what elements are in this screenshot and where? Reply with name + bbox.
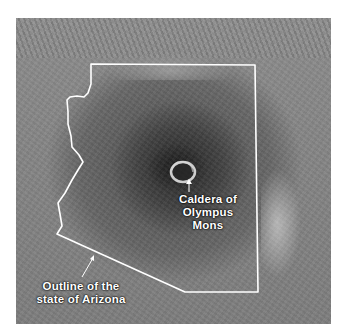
arizona-label: Outline of the state of Arizona xyxy=(36,280,126,306)
caldera-label: Caldera of Olympus Mons xyxy=(168,193,248,232)
arizona-arrow xyxy=(82,255,94,277)
arizona-label-line1: Outline of the xyxy=(36,280,126,293)
arizona-label-line2: state of Arizona xyxy=(36,293,126,306)
arizona-outline xyxy=(57,64,258,292)
caldera-label-line1: Caldera of xyxy=(168,193,248,206)
caldera-label-line2: Olympus Mons xyxy=(168,206,248,232)
caldera-shape xyxy=(171,162,195,182)
